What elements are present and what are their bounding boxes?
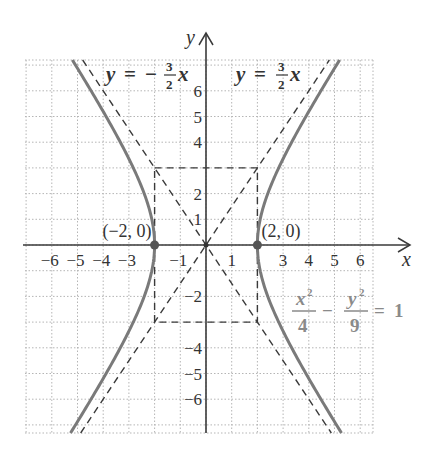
y-tick-label: 4 (194, 133, 203, 152)
x-tick-label: 1 (227, 251, 236, 270)
x-tick-label: 5 (330, 251, 339, 270)
hyperbola-equation: x 2 4 − y 2 9 = 1 (292, 286, 404, 336)
hyperbola-left-branch (71, 60, 155, 433)
asym-pos-num: 3 (278, 59, 285, 74)
vertex-point (150, 241, 159, 250)
y-tick-label: 6 (194, 82, 203, 101)
vertex-label: (−2, 0) (102, 221, 151, 242)
vertex-label: (2, 0) (261, 221, 300, 242)
x-tick-label: −1 (169, 251, 187, 270)
asym-neg-lhs: y (103, 62, 116, 86)
x-tick-label: −6 (41, 251, 59, 270)
asym-neg-eq: = (124, 62, 136, 86)
asymptote-label-positive: y = 3 2 x (233, 59, 301, 92)
eq-term1-num: x (295, 288, 306, 309)
x-tick-label: −4 (92, 251, 111, 270)
eq-term2-num: y (346, 288, 357, 309)
y-tick-label: 2 (194, 185, 203, 204)
eq-minus: − (322, 300, 333, 321)
y-axis-label: y (184, 26, 195, 49)
x-tick-label: −5 (66, 251, 84, 270)
asym-neg-var: x (177, 62, 189, 86)
hyperbola-graph: −6−5−4−3−11345665421−2−4−5−6 (−2, 0)(2, … (0, 0, 437, 474)
asym-neg-den: 2 (166, 77, 173, 92)
eq-term2-exp: 2 (359, 286, 365, 298)
x-tick-label: 6 (356, 251, 365, 270)
y-tick-label: −5 (184, 365, 202, 384)
vertex-point (253, 241, 262, 250)
x-tick-label: −3 (118, 251, 136, 270)
eq-equals: = (374, 300, 385, 321)
asym-pos-eq: = (254, 62, 266, 86)
eq-term2-den: 9 (350, 315, 360, 336)
x-axis-label: x (401, 248, 411, 270)
y-tick-label: −4 (184, 339, 203, 358)
y-tick-label: 1 (194, 210, 203, 229)
asym-neg-num: 3 (166, 59, 173, 74)
asym-pos-var: x (289, 62, 301, 86)
y-tick-label: −6 (184, 390, 202, 409)
y-tick-label: 5 (194, 108, 203, 127)
x-tick-label: 4 (305, 251, 314, 270)
eq-term1-den: 4 (298, 315, 308, 336)
asym-pos-lhs: y (233, 62, 246, 86)
asym-neg-sign: − (145, 62, 157, 86)
asymptote-label-negative: y = − 3 2 x (103, 59, 189, 92)
eq-term1-exp: 2 (307, 286, 313, 298)
hyperbola-right-branch (257, 60, 341, 433)
origin-point (204, 243, 209, 248)
y-tick-label: −2 (184, 287, 202, 306)
asym-pos-den: 2 (278, 77, 285, 92)
x-tick-label: 3 (279, 251, 288, 270)
eq-rhs: 1 (394, 300, 404, 321)
